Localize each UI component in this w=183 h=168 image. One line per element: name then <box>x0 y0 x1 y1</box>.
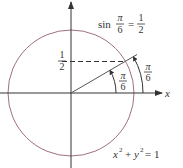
sin-func: sin <box>98 18 111 30</box>
unit-circle-diagram: sin π 6 = 1 2 1 2 π 6 π 6 x x 2 + y 2 = … <box>0 0 183 168</box>
arg-denominator: 6 <box>118 24 123 35</box>
eq-y: y <box>133 148 139 160</box>
outer-angle-numerator: π <box>145 61 151 72</box>
eq-rhs: = 1 <box>145 148 159 160</box>
eq-y-exp: 2 <box>140 146 144 154</box>
inner-angle-numerator: π <box>120 70 126 81</box>
inner-angle-label: π 6 <box>119 70 127 92</box>
y-label-numerator: 1 <box>60 49 65 60</box>
outer-angle-label: π 6 <box>144 61 152 83</box>
val-denominator: 2 <box>139 24 144 35</box>
eq-x: x <box>112 148 118 160</box>
val-numerator: 1 <box>139 12 144 23</box>
sine-equation: sin π 6 = 1 2 <box>98 12 145 35</box>
eq-x-exp: 2 <box>119 146 123 154</box>
terminal-ray <box>71 55 137 94</box>
circle-equation: x 2 + y 2 = 1 <box>112 146 159 160</box>
eq-plus: + <box>125 148 131 160</box>
y-half-label: 1 2 <box>58 49 66 72</box>
outer-angle-arc <box>134 57 144 93</box>
arg-numerator: π <box>117 12 123 23</box>
inner-angle-denominator: 6 <box>121 81 126 92</box>
x-axis-label: x <box>164 87 170 99</box>
inner-angle-arc <box>110 71 116 94</box>
y-label-denominator: 2 <box>60 61 65 72</box>
equals-sign: = <box>128 18 134 30</box>
outer-angle-denominator: 6 <box>146 72 151 83</box>
